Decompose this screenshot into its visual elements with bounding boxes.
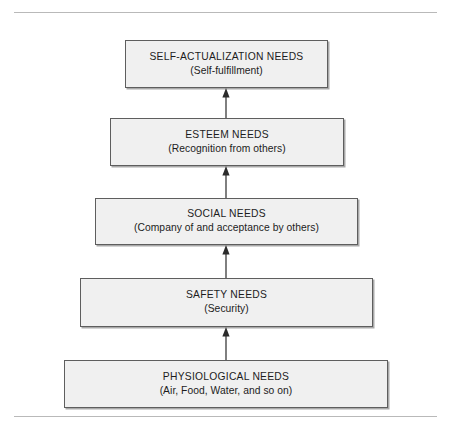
arrow-esteem-to-self-actualization-icon [218,88,234,118]
arrow-physiological-to-safety-icon [218,327,234,360]
level-box-self-actualization: SELF-ACTUALIZATION NEEDS (Self-fulfillme… [125,40,328,88]
level-title-social: SOCIAL NEEDS [187,208,266,221]
level-box-safety: SAFETY NEEDS (Security) [80,278,373,327]
top-divider-rule [14,12,437,13]
level-title-physiological: PHYSIOLOGICAL NEEDS [163,371,289,384]
level-box-physiological: PHYSIOLOGICAL NEEDS (Air, Food, Water, a… [64,360,388,408]
hierarchy-of-needs-figure: SELF-ACTUALIZATION NEEDS (Self-fulfillme… [0,0,449,427]
level-subtitle-esteem: (Recognition from others) [168,143,285,156]
arrow-safety-to-social-icon [218,245,234,278]
level-box-esteem: ESTEEM NEEDS (Recognition from others) [110,118,344,166]
level-subtitle-physiological: (Air, Food, Water, and so on) [160,385,293,398]
level-subtitle-safety: (Security) [204,303,249,316]
level-box-social: SOCIAL NEEDS (Company of and acceptance … [95,198,358,245]
level-subtitle-social: (Company of and acceptance by others) [134,222,319,235]
arrow-social-to-esteem-icon [218,166,234,198]
level-title-safety: SAFETY NEEDS [186,289,267,302]
level-subtitle-self-actualization: (Self-fulfillment) [190,65,262,78]
bottom-divider-rule [14,416,437,417]
level-title-self-actualization: SELF-ACTUALIZATION NEEDS [150,51,304,64]
level-title-esteem: ESTEEM NEEDS [185,129,269,142]
